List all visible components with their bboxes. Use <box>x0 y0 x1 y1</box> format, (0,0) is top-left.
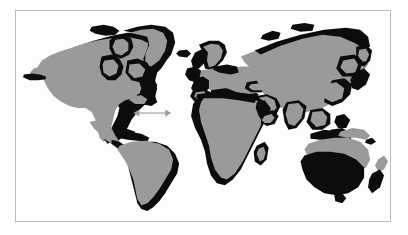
world-map-svg <box>16 11 390 221</box>
figure-root <box>0 0 408 235</box>
region-south-america <box>117 141 179 211</box>
region-australia-oceania <box>300 128 388 203</box>
arctic-islands-siberia <box>291 23 315 32</box>
novaya-zemlya <box>261 31 281 41</box>
region-africa <box>191 92 279 185</box>
new-zealand-north-island <box>375 156 388 172</box>
arctic-islands <box>90 25 120 36</box>
arrow-head-right <box>165 110 171 117</box>
new-zealand-south-island <box>368 169 384 193</box>
atlantic-double-arrow <box>133 110 171 117</box>
south-america-landmass <box>117 141 173 205</box>
world-map-panel <box>15 10 391 222</box>
philippines <box>334 114 350 128</box>
iceland <box>176 50 191 58</box>
